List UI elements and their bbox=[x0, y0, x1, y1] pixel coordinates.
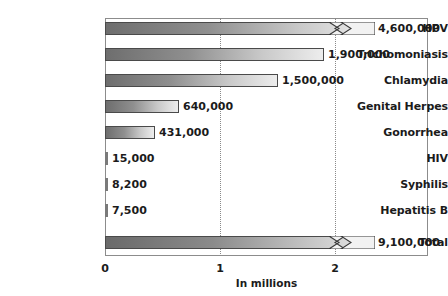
bar-row bbox=[105, 152, 108, 165]
category-label: Genital Herpes bbox=[348, 101, 448, 113]
bar-row bbox=[105, 126, 155, 139]
bar-value-label: 8,200 bbox=[112, 178, 147, 191]
bar-value-label: 4,600,000 bbox=[378, 22, 440, 35]
bar-row bbox=[105, 48, 324, 61]
bar-row bbox=[105, 100, 179, 113]
category-label: Hepatitis B bbox=[348, 205, 448, 217]
bar-value-label: 7,500 bbox=[112, 204, 147, 217]
category-label: Chlamydia bbox=[348, 75, 448, 87]
std-incidence-bar-chart: HPVTrichomoniasisChlamydiaGenital Herpes… bbox=[0, 0, 448, 296]
bar-chlamydia bbox=[105, 74, 278, 87]
category-label: Gonorrhea bbox=[348, 127, 448, 139]
category-label: Syphilis bbox=[348, 179, 448, 191]
bar-row bbox=[105, 74, 278, 87]
x-tick-label: 1 bbox=[210, 262, 230, 275]
bar-value-label: 431,000 bbox=[159, 126, 209, 139]
bar-row bbox=[105, 236, 375, 249]
bar-value-label: 1,500,000 bbox=[282, 74, 344, 87]
x-tick-label: 0 bbox=[95, 262, 115, 275]
bar-row bbox=[105, 204, 108, 217]
bar-gonorrhea bbox=[105, 126, 155, 139]
category-label: HIV bbox=[348, 153, 448, 165]
bar-genital-herpes bbox=[105, 100, 179, 113]
bar-row bbox=[105, 22, 375, 35]
bar-value-label: 9,100,000 bbox=[378, 236, 440, 249]
bar-syphilis bbox=[105, 178, 108, 191]
bar-trichomoniasis bbox=[105, 48, 324, 61]
bar-value-label: 15,000 bbox=[112, 152, 154, 165]
bar-hiv bbox=[105, 152, 108, 165]
x-axis-title: In millions bbox=[105, 277, 428, 289]
bar-value-label: 1,900,000 bbox=[328, 48, 390, 61]
x-tick-label: 2 bbox=[325, 262, 345, 275]
bar-total bbox=[105, 236, 375, 249]
bar-value-label: 640,000 bbox=[183, 100, 233, 113]
bar-hepatitis-b bbox=[105, 204, 108, 217]
bar-hpv bbox=[105, 22, 375, 35]
bar-row bbox=[105, 178, 108, 191]
